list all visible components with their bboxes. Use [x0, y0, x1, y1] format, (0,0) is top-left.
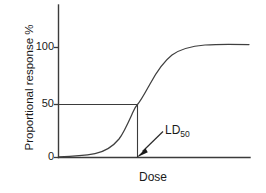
- y-axis-title: Proportional response %: [23, 10, 36, 165]
- x-axis-title: Dose: [108, 170, 198, 184]
- ld50-annotation-text: LD: [165, 123, 180, 137]
- chart-plot-area: [0, 0, 266, 193]
- ld50-arrow-head: [137, 148, 148, 157]
- ld50-annotation-subscript: 50: [180, 129, 189, 139]
- ld50-annotation-label: LD50: [165, 124, 190, 138]
- dose-response-chart: 100 50 0 Proportional response % Dose LD…: [0, 0, 266, 193]
